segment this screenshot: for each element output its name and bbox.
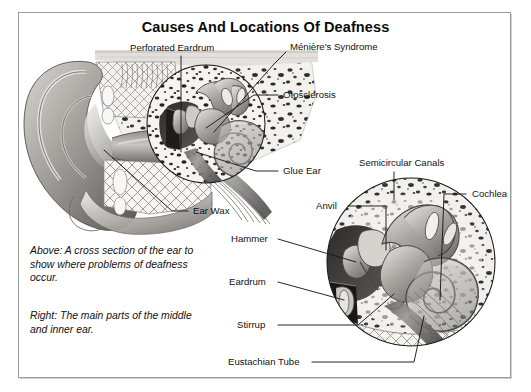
- label-ear-wax: Ear Wax: [193, 205, 229, 216]
- label-perforated-eardrum: Perforated Eardrum: [130, 42, 214, 53]
- caption-above: Above: A cross section of the ear to sho…: [30, 244, 205, 285]
- label-menieres-syndrome: Ménière's Syndrome: [290, 41, 378, 52]
- page-title: Causes And Locations Of Deafness: [0, 19, 531, 35]
- label-eustachian-tube: Eustachian Tube: [228, 356, 299, 367]
- label-semicircular-canals: Semicircular Canals: [359, 157, 444, 168]
- label-glue-ear: Glue Ear: [283, 165, 321, 176]
- label-cochlea: Cochlea: [472, 188, 507, 199]
- label-otosclerosis: Otosclerosis: [283, 89, 336, 100]
- label-stirrup: Stirrup: [237, 319, 265, 330]
- caption-right: Right: The main parts of the middle and …: [30, 309, 205, 336]
- label-anvil: Anvil: [316, 200, 337, 211]
- label-hammer: Hammer: [231, 233, 268, 244]
- diagram-page: Causes And Locations Of Deafness: [0, 0, 531, 392]
- label-eardrum: Eardrum: [229, 276, 266, 287]
